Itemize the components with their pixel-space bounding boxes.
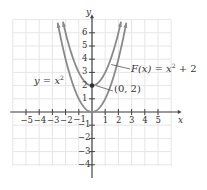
vertex-point-label: (0, 2) bbox=[114, 84, 141, 94]
vertex-point bbox=[90, 83, 95, 88]
x-tick-label: 2 bbox=[116, 116, 121, 125]
y-tick-label: −2 bbox=[78, 133, 91, 142]
x-tick-label: 3 bbox=[129, 116, 134, 125]
x-tick-label: 5 bbox=[156, 116, 161, 125]
y-tick-label: 6 bbox=[82, 28, 87, 37]
y-tick-label: 5 bbox=[82, 41, 87, 50]
y-tick-label: 2 bbox=[82, 81, 87, 90]
x-tick-label: 4 bbox=[142, 116, 147, 125]
y-tick-label: −3 bbox=[78, 147, 91, 156]
y-tick-label: 1 bbox=[82, 94, 87, 103]
x-axis-arrow-icon bbox=[178, 110, 182, 114]
x-tick-label: −4 bbox=[34, 116, 47, 125]
graph-figure: y x −5−4−3−2−112345 654321−1−2−3−4 y = x… bbox=[0, 0, 207, 190]
y-tick-label: −4 bbox=[78, 160, 91, 169]
shifted-parabola-label: F(x) = x2 + 2 bbox=[131, 63, 197, 74]
y-tick-label: 3 bbox=[82, 67, 87, 76]
x-tick-label: 1 bbox=[103, 116, 108, 125]
plot-area bbox=[0, 0, 207, 190]
x-tick-label: −5 bbox=[21, 116, 34, 125]
f-leader-line bbox=[111, 64, 130, 69]
x-axis-label: x bbox=[178, 116, 183, 125]
y-tick-label: −1 bbox=[78, 120, 91, 129]
y-axis-label: y bbox=[86, 8, 91, 17]
x-tick-label: −2 bbox=[60, 116, 73, 125]
x-tick-label: −3 bbox=[47, 116, 60, 125]
parabola-label: y = x2 bbox=[34, 75, 64, 86]
y-tick-label: 4 bbox=[82, 54, 87, 63]
